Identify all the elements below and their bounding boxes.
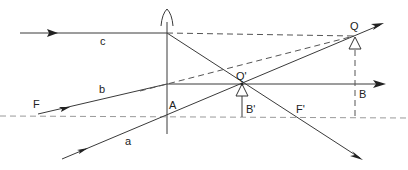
label-Q: Q bbox=[350, 20, 359, 32]
arrow-icon bbox=[77, 148, 88, 154]
label-Q-prime: Q' bbox=[236, 70, 247, 82]
label-B-prime: B' bbox=[246, 103, 255, 115]
label-F-prime: F' bbox=[296, 103, 305, 115]
label-A: A bbox=[169, 99, 177, 111]
label-b: b bbox=[99, 83, 105, 95]
arrow-icon bbox=[371, 23, 384, 30]
label-a: a bbox=[125, 135, 132, 147]
hollow-arrowhead-icon bbox=[349, 37, 361, 49]
lens-ray-diagram: c b a F A Q' B' F' B Q bbox=[0, 0, 408, 170]
label-F: F bbox=[33, 98, 40, 110]
optical-axis bbox=[0, 116, 408, 118]
ray-b bbox=[38, 36, 386, 114]
ray-c-extension bbox=[167, 33, 354, 36]
ray-b-extension bbox=[140, 36, 354, 91]
ray-a bbox=[62, 23, 384, 159]
ray-c bbox=[20, 29, 363, 160]
hollow-arrowhead-icon bbox=[236, 84, 248, 96]
label-B: B bbox=[359, 88, 366, 100]
label-c: c bbox=[100, 35, 106, 47]
arrow-icon bbox=[59, 107, 70, 112]
image-arrow bbox=[349, 37, 361, 118]
